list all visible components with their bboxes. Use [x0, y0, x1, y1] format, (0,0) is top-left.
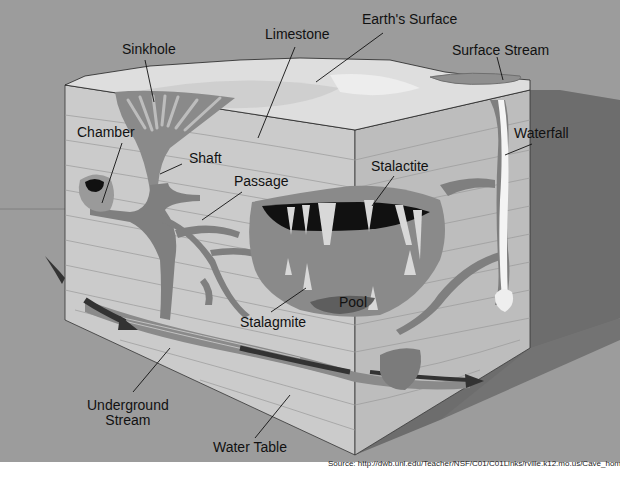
cave-diagram: Earth's Surface Limestone Sinkhole Surfa…	[0, 0, 620, 486]
label-limestone: Limestone	[265, 27, 330, 42]
label-chamber: Chamber	[77, 125, 135, 140]
label-underground-stream-line1: Underground	[87, 398, 169, 413]
source-citation: Source: http://dwb.unl.edu/Teacher/NSF/C…	[328, 459, 620, 468]
label-passage: Passage	[234, 174, 288, 189]
label-pool: Pool	[339, 295, 367, 310]
label-stalactite: Stalactite	[371, 159, 429, 174]
label-stalagmite: Stalagmite	[240, 315, 306, 330]
label-underground-stream: Underground Stream	[87, 398, 169, 428]
label-surface-stream: Surface Stream	[452, 43, 549, 58]
label-shaft: Shaft	[189, 151, 222, 166]
label-sinkhole: Sinkhole	[122, 42, 176, 57]
label-underground-stream-line2: Stream	[87, 413, 169, 428]
label-earths-surface: Earth's Surface	[362, 12, 457, 27]
label-water-table: Water Table	[213, 440, 287, 455]
label-waterfall: Waterfall	[514, 126, 569, 141]
